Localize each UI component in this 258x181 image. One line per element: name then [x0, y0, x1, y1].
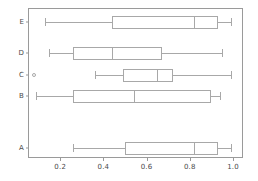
- whisker-high-line-a: [218, 148, 231, 149]
- whisker-low-cap-a: [73, 144, 74, 152]
- whisker-low-line-a: [73, 148, 125, 149]
- median-line-a: [194, 142, 195, 155]
- boxplot-series: [0, 0, 258, 181]
- box-plot-a: [0, 0, 258, 181]
- box-a: [125, 142, 218, 155]
- boxplot-figure: EDCBA 0.20.40.60.81.0: [0, 0, 258, 181]
- whisker-high-cap-a: [231, 144, 232, 152]
